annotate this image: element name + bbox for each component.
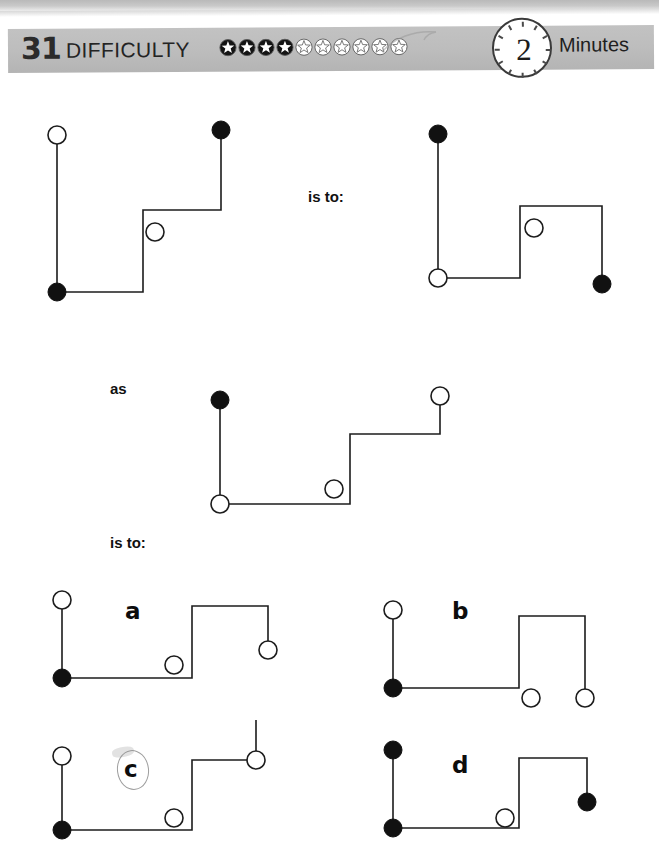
node-filled [578, 793, 596, 811]
node-open [53, 591, 71, 609]
node-filled [53, 669, 71, 687]
relation-label-as: as [110, 380, 127, 397]
figure-path [438, 134, 602, 284]
option-a-label: a [125, 598, 141, 624]
figure-path [57, 130, 221, 292]
node-open [384, 601, 402, 619]
option-c-label: c [124, 756, 138, 782]
node-filled [48, 283, 66, 301]
node-open [496, 809, 514, 827]
star-outline-icon [333, 38, 351, 56]
node-open [53, 747, 71, 765]
timer-unit-label: Minutes [559, 33, 629, 56]
node-open [211, 495, 229, 513]
node-filled [593, 275, 611, 293]
question-1-left-figure [35, 110, 265, 320]
node-open [48, 126, 66, 144]
option-c[interactable] [40, 718, 300, 848]
option-a[interactable] [40, 578, 300, 698]
option-b[interactable] [371, 588, 631, 713]
pencil-arrow-mark [380, 28, 440, 54]
node-open [522, 689, 540, 707]
figure-path [62, 720, 256, 830]
option-d-svg [371, 728, 631, 853]
question-1-left-svg [35, 110, 265, 320]
node-filled [53, 821, 71, 839]
star-filled-icon [257, 38, 275, 56]
figure-path [393, 750, 587, 828]
question-2-figure [198, 378, 478, 528]
option-d[interactable] [371, 728, 631, 853]
node-open [259, 641, 277, 659]
node-filled [384, 679, 402, 697]
star-outline-icon [295, 38, 313, 56]
node-filled [212, 121, 230, 139]
node-filled [211, 391, 229, 409]
node-filled [429, 125, 447, 143]
node-filled [384, 741, 402, 759]
puzzle-page: 31 DIFFICULTY 2 Minutes is to: as is to:… [0, 0, 659, 858]
option-b-svg [371, 588, 631, 713]
node-open [325, 480, 343, 498]
option-a-svg [40, 578, 300, 698]
star-outline-icon [352, 38, 370, 56]
node-filled [384, 819, 402, 837]
header-content: 31 DIFFICULTY 2 Minutes [8, 25, 654, 73]
node-open [165, 809, 183, 827]
clock-tick [522, 73, 524, 78]
option-c-svg [40, 718, 300, 848]
timer-clock-icon: 2 [492, 18, 552, 78]
node-open [165, 656, 183, 674]
node-open [431, 387, 449, 405]
difficulty-label: DIFFICULTY [66, 38, 190, 63]
clock-tick [546, 49, 551, 51]
figure-path [393, 610, 585, 692]
puzzle-number: 31 [21, 31, 61, 66]
star-filled-icon [238, 38, 256, 56]
star-filled-icon [219, 39, 237, 57]
node-open [247, 751, 265, 769]
option-b-label: b [452, 598, 468, 624]
option-d-label: d [452, 752, 468, 778]
star-filled-icon [276, 38, 294, 56]
question-1-right-svg [418, 112, 648, 312]
relation-label-is-to-2: is to: [110, 534, 146, 551]
node-open [429, 269, 447, 287]
node-open [146, 223, 164, 241]
question-2-svg [198, 378, 478, 528]
clock-tick [522, 22, 524, 27]
relation-label-is-to-1: is to: [308, 188, 344, 205]
clock-tick [495, 49, 500, 51]
node-open [525, 219, 543, 237]
star-outline-icon [314, 38, 332, 56]
question-1-right-figure [418, 112, 648, 312]
node-open [576, 689, 594, 707]
